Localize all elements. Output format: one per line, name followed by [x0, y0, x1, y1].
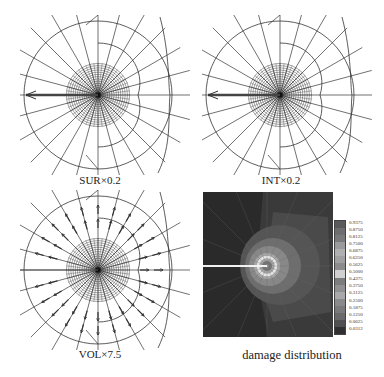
- colorbar-label: 0.0312: [349, 325, 363, 332]
- colorbar-swatch: [335, 313, 345, 320]
- caption-int: INT×0.2: [216, 174, 346, 186]
- colorbar-swatch: [335, 256, 345, 263]
- caption-sur: SUR×0.2: [35, 174, 165, 186]
- colorbar: [334, 220, 346, 335]
- panel-sur: [20, 15, 190, 175]
- caption-damage: damage distribution: [227, 348, 357, 363]
- colorbar-label: 0.5000: [349, 268, 363, 275]
- colorbar-swatch: [335, 249, 345, 256]
- colorbar-swatch: [335, 235, 345, 242]
- panel-vol: [20, 190, 190, 350]
- colorbar-label: 0.1250: [349, 311, 363, 318]
- colorbar-label: 0.6875: [349, 247, 363, 254]
- colorbar-swatch: [335, 292, 345, 299]
- colorbar-swatch: [335, 228, 345, 235]
- colorbar-swatch: [335, 327, 345, 334]
- panel-damage: [203, 192, 333, 337]
- colorbar-swatch: [335, 285, 345, 292]
- colorbar-label: 0.8125: [349, 233, 363, 240]
- mesh-int-plot: [202, 15, 372, 175]
- colorbar-label: 0.1875: [349, 304, 363, 311]
- colorbar-swatch: [335, 270, 345, 277]
- colorbar-label: 0.4375: [349, 275, 363, 282]
- colorbar-label: 0.6250: [349, 254, 363, 261]
- colorbar-swatch: [335, 320, 345, 327]
- colorbar-label: 0.9375: [349, 219, 363, 226]
- colorbar-labels: 0.93750.87500.81250.75000.68750.62500.56…: [349, 219, 363, 332]
- colorbar-label: 0.2500: [349, 297, 363, 304]
- colorbar-label: 0.0625: [349, 318, 363, 325]
- mesh-vol-plot: [20, 190, 190, 350]
- colorbar-swatch: [335, 306, 345, 313]
- panel-int: [202, 15, 372, 175]
- colorbar-swatch: [335, 221, 345, 228]
- colorbar-swatch: [335, 263, 345, 270]
- colorbar-label: 0.3750: [349, 282, 363, 289]
- colorbar-swatch: [335, 242, 345, 249]
- damage-contour-plot: [203, 192, 333, 337]
- colorbar-label: 0.3125: [349, 289, 363, 296]
- colorbar-swatch: [335, 278, 345, 285]
- colorbar-label: 0.8750: [349, 226, 363, 233]
- colorbar-label: 0.7500: [349, 240, 363, 247]
- colorbar-swatch: [335, 299, 345, 306]
- caption-vol: VOL×7.5: [35, 348, 165, 360]
- mesh-sur-plot: [20, 15, 190, 175]
- colorbar-label: 0.5625: [349, 261, 363, 268]
